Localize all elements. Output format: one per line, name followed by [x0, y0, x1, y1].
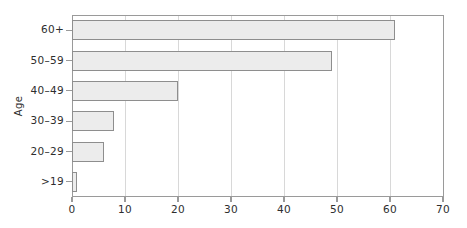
y-tick-1 — [66, 151, 72, 152]
bar-chart: Age >1920–2930–3940–4950–5960+ 010203040… — [0, 0, 467, 228]
bars-layer — [72, 15, 443, 197]
plot-right-border — [443, 15, 444, 197]
bar-20-29 — [72, 142, 104, 162]
x-tick-label-0: 0 — [57, 203, 87, 215]
x-tick-70 — [442, 197, 443, 202]
x-tick-20 — [177, 197, 178, 202]
y-tick-0 — [66, 181, 72, 182]
x-tick-label-70: 70 — [428, 203, 458, 215]
bar-60 — [72, 20, 395, 40]
x-tick-label-40: 40 — [269, 203, 299, 215]
x-tick-30 — [230, 197, 231, 202]
y-axis-title: Age — [10, 15, 26, 197]
x-tick-0 — [71, 197, 72, 202]
y-tick-label-4: 50–59 — [26, 54, 64, 66]
x-tick-label-20: 20 — [163, 203, 193, 215]
bar-40-49 — [72, 81, 178, 101]
x-tick-label-60: 60 — [375, 203, 405, 215]
y-tick-3 — [66, 90, 72, 91]
y-tick-4 — [66, 60, 72, 61]
bar-50-59 — [72, 51, 332, 71]
bar-19 — [72, 172, 77, 192]
bar-30-39 — [72, 111, 114, 131]
y-tick-label-3: 40–49 — [26, 84, 64, 96]
x-tick-50 — [336, 197, 337, 202]
y-tick-label-0: >19 — [26, 175, 64, 187]
x-tick-label-30: 30 — [216, 203, 246, 215]
y-tick-2 — [66, 121, 72, 122]
x-tick-label-50: 50 — [322, 203, 352, 215]
y-tick-label-1: 20–29 — [26, 145, 64, 157]
x-tick-label-10: 10 — [110, 203, 140, 215]
x-tick-10 — [124, 197, 125, 202]
x-tick-40 — [283, 197, 284, 202]
y-tick-label-2: 30–39 — [26, 114, 64, 126]
y-tick-label-5: 60+ — [26, 23, 64, 35]
y-tick-5 — [66, 30, 72, 31]
x-tick-60 — [389, 197, 390, 202]
